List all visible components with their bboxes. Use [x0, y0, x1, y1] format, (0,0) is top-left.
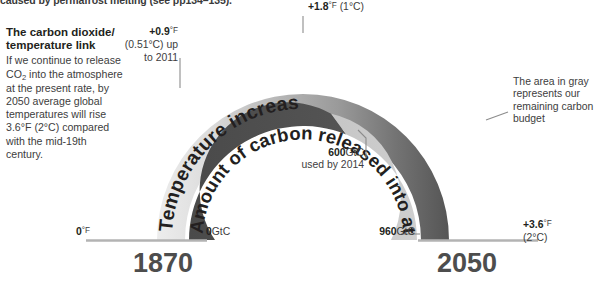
annotation-carbon-total-value: 960 [379, 226, 396, 237]
annotation-temp-start-value: 0 [76, 226, 82, 237]
annotation-carbon-start: 0GtC [206, 226, 256, 238]
annotation-carbon-total-unit: GtC [397, 226, 415, 237]
annotation-temp-2011-unit: °F [170, 26, 178, 35]
annotation-temp-2011: +0.9°F (0.51°C) up to 2011 [120, 26, 178, 64]
co2-subscript: 2 [22, 73, 26, 82]
annotation-temp-2050: +3.6°F (2°C) [523, 219, 593, 245]
year-label-end: 2050 [437, 248, 497, 279]
annotation-gray-area-note: The area in gray represents our remainin… [513, 76, 603, 125]
annotation-carbon-total: 960GtC [355, 226, 415, 238]
leader-gray-note [486, 112, 508, 120]
explainer-body: If we continue to release CO2 into the a… [6, 54, 124, 161]
explainer-heading: The carbon dioxide/ temperature link [6, 26, 124, 52]
annotation-temp-mid-unit: °F [328, 1, 336, 10]
year-label-start: 1870 [133, 248, 193, 279]
annotation-carbon-used-unit: GtC [346, 147, 364, 158]
annotation-temp-2050-unit: °F [544, 219, 552, 228]
annotation-temp-mid: +1.8°F (1°C) [276, 1, 396, 14]
left-explainer-column: The carbon dioxide/ temperature link If … [6, 26, 124, 161]
annotation-temp-mid-detail: (1°C) [340, 1, 364, 12]
annotation-temp-2050-value: +3.6 [523, 219, 544, 230]
annotation-temp-start-unit: °F [82, 226, 90, 235]
annotation-temp-start: 0°F [46, 226, 90, 239]
annotation-carbon-used-detail: used by 2014 [302, 159, 364, 170]
annotation-temp-2050-detail: (2°C) [523, 232, 547, 243]
annotation-temp-mid-value: +1.8 [308, 1, 329, 12]
annotation-carbon-used-value: 600 [328, 147, 345, 158]
annotation-carbon-start-unit: GtC [212, 226, 230, 237]
annotation-temp-2011-detail: (0.51°C) up to 2011 [125, 39, 178, 62]
annotation-carbon-used: 600GtC used by 2014 [272, 147, 364, 172]
annotation-temp-2011-value: +0.9 [149, 26, 170, 37]
